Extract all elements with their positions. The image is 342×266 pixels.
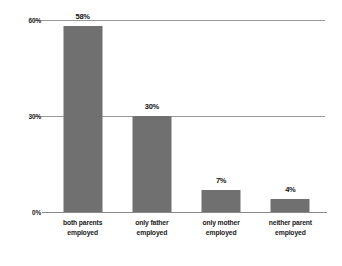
bar-slot-neither-parent-employed: 4% [256, 20, 325, 212]
bar-chart: 60% 30% 0% 58% 30% 7% 4% [0, 0, 342, 266]
axis-baseline-0 [42, 212, 327, 213]
bar-slot-only-father-employed: 30% [117, 20, 186, 212]
x-label-line-1: only father [117, 218, 186, 228]
x-label-line-2: employed [256, 228, 325, 238]
x-label-line-2: employed [48, 228, 117, 238]
bar-only-mother-employed[interactable] [202, 190, 241, 212]
x-label-only-father-employed: only father employed [117, 218, 186, 238]
bar-neither-parent-employed[interactable] [271, 199, 310, 212]
bar-only-father-employed[interactable] [132, 116, 171, 212]
bar-value-label: 4% [285, 185, 295, 194]
x-label-line-2: employed [187, 228, 256, 238]
bar-value-label: 30% [145, 102, 159, 111]
ytick-label-30: 30% [29, 113, 41, 120]
x-label-line-2: employed [117, 228, 186, 238]
x-label-line-1: both parents [48, 218, 117, 228]
bar-value-label: 7% [216, 176, 226, 185]
bar-slot-both-parents-employed: 58% [48, 20, 117, 212]
bar-value-label: 58% [75, 12, 89, 21]
x-label-line-1: neither parent [256, 218, 325, 228]
bar-both-parents-employed[interactable] [63, 26, 102, 212]
x-label-both-parents-employed: both parents employed [48, 218, 117, 238]
bar-series: 58% 30% 7% 4% [48, 20, 325, 212]
x-axis-labels: both parents employed only father employ… [48, 218, 325, 252]
ytick-label-60: 60% [29, 17, 41, 24]
bar-slot-only-mother-employed: 7% [187, 20, 256, 212]
ytick-label-0: 0% [32, 209, 41, 216]
x-label-neither-parent-employed: neither parent employed [256, 218, 325, 238]
plot-area: 60% 30% 0% 58% 30% 7% 4% [48, 20, 325, 212]
x-label-line-1: only mother [187, 218, 256, 228]
x-label-only-mother-employed: only mother employed [187, 218, 256, 238]
